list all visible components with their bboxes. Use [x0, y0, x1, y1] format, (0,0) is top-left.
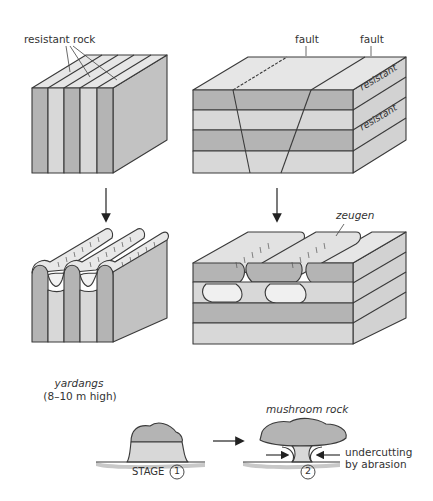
yardangs-block — [32, 229, 168, 342]
zeugen-label: zeugen — [336, 209, 374, 221]
diagram-canvas — [0, 0, 433, 501]
yardangs-label: yardangs — [44, 377, 114, 389]
yardangs-height-label: (8–10 m high) — [40, 390, 120, 402]
stage-2-number: 2 — [305, 466, 311, 477]
zeugen-block — [193, 232, 406, 344]
fault-label-2: fault — [360, 33, 384, 45]
resistant-rock-label: resistant rock — [24, 33, 95, 45]
stage-1-rock — [96, 423, 205, 469]
vertical-bands-block — [32, 55, 167, 173]
stage-word-label: STAGE — [132, 466, 164, 478]
undercutting-label: undercutting — [345, 446, 412, 458]
fault-leaders — [306, 46, 371, 56]
fault-label-1: fault — [295, 33, 319, 45]
mushroom-rock-label: mushroom rock — [266, 403, 348, 415]
by-abrasion-label: by abrasion — [345, 458, 407, 470]
stage-2-mushroom-rock — [243, 418, 346, 469]
stage-1-number: 1 — [174, 466, 180, 477]
